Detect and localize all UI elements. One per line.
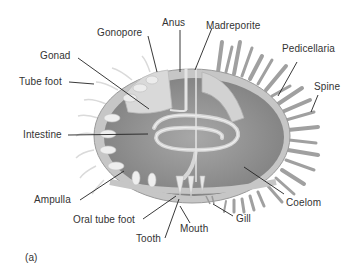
label-ampulla: Ampulla: [34, 194, 71, 206]
panel-label: (a): [25, 252, 38, 264]
label-intestine: Intestine: [23, 129, 62, 141]
label-pedicellaria: Pedicellaria: [282, 43, 335, 55]
gonad-organ: [124, 70, 172, 113]
label-gonad: Gonad: [40, 50, 71, 62]
label-coelom: Coelom: [286, 197, 321, 209]
label-anus: Anus: [162, 17, 185, 29]
label-mouth: Mouth: [180, 223, 208, 235]
label-oral-tube-foot: Oral tube foot: [73, 214, 135, 226]
label-spine: Spine: [314, 81, 340, 93]
label-tube-foot: Tube foot: [19, 76, 62, 88]
label-madreporite: Madreporite: [206, 20, 260, 32]
label-gill: Gill: [236, 213, 251, 225]
label-gonopore: Gonopore: [97, 27, 142, 39]
label-tooth: Tooth: [136, 233, 161, 245]
